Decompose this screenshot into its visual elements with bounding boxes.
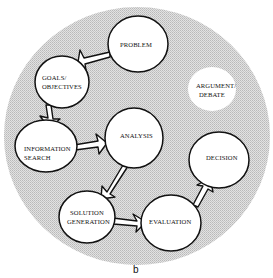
- label-goals-line2: OBJECTIVES: [42, 83, 82, 90]
- label-decision: DECISION: [206, 154, 238, 161]
- node-argument-debate: [188, 67, 236, 111]
- node-solution-generation: [59, 191, 115, 243]
- label-solution-line2: GENERATION: [67, 218, 110, 225]
- label-argument-line2: DEBATE: [199, 91, 225, 98]
- figure-caption: b: [133, 264, 139, 275]
- label-info-line1: INFORMATION: [24, 145, 71, 152]
- process-diagram: PROBLEM GOALS/ OBJECTIVES ARGUMENT/ DEBA…: [0, 0, 273, 278]
- label-argument-line1: ARGUMENT/: [196, 82, 236, 89]
- node-goals-objectives: [35, 56, 89, 108]
- label-info-line2: SEARCH: [24, 154, 51, 161]
- label-solution-line1: SOLUTION: [70, 209, 104, 216]
- label-analysis: ANALYSIS: [120, 132, 153, 139]
- label-evaluation: EVALUATION: [149, 218, 191, 225]
- label-problem: PROBLEM: [120, 41, 152, 48]
- label-goals-line1: GOALS/: [42, 74, 66, 81]
